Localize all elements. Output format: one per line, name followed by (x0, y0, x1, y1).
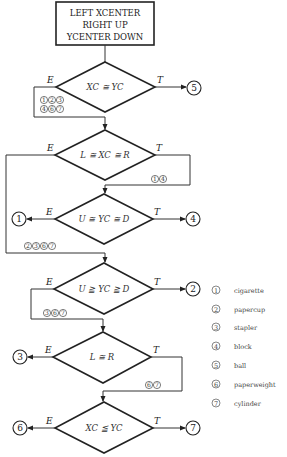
item-group: 6 7 (145, 381, 160, 389)
decision-3-condition: U ≅ YC ≅ D (79, 214, 130, 224)
legend-item-5: 5 ball (212, 361, 246, 370)
decision-5-condition: L ≅ R (89, 352, 115, 362)
svg-text:3: 3 (34, 242, 38, 249)
terminal-2: 2 (186, 282, 200, 296)
decision-6: XC ≦ YC (55, 402, 153, 453)
svg-text:4: 4 (214, 343, 218, 351)
legend: 1 cigarette 2 papercup 3 stapler 4 block… (212, 286, 276, 408)
terminal-4: 4 (186, 212, 200, 226)
then-label: T (154, 277, 161, 287)
svg-text:4: 4 (42, 105, 46, 112)
start-box: LEFT XCENTER RIGHT UP YCENTER DOWN (56, 2, 154, 45)
then-label: T (157, 75, 164, 85)
terminal-3: 3 (13, 350, 27, 364)
item-group: 2 3 6 7 (24, 242, 55, 250)
start-box-line-2: RIGHT UP (82, 20, 127, 30)
terminal-1: 1 (12, 212, 26, 226)
svg-text:6: 6 (17, 423, 23, 433)
svg-text:stapler: stapler (234, 324, 258, 332)
svg-text:1: 1 (16, 214, 22, 224)
decision-2-condition: L ≅ XC ≅ R (79, 150, 130, 160)
svg-text:3: 3 (214, 324, 218, 332)
decision-3: U ≅ YC ≅ D (55, 194, 153, 244)
else-label: E (45, 207, 53, 217)
decision-1-condition: XC ≅ YC (86, 82, 124, 92)
svg-text:7: 7 (155, 381, 159, 388)
svg-text:3: 3 (45, 309, 49, 316)
svg-text:3: 3 (58, 96, 62, 103)
svg-text:papercup: papercup (234, 306, 265, 314)
svg-text:7: 7 (50, 242, 54, 249)
decision-4: U ≧ YC ≧ D (54, 263, 153, 314)
terminal-6: 6 (13, 421, 27, 435)
decision-4-condition: U ≧ YC ≧ D (79, 284, 130, 294)
svg-text:7: 7 (214, 400, 218, 408)
svg-text:7: 7 (190, 423, 196, 433)
then-label: T (154, 416, 161, 426)
svg-text:1: 1 (42, 96, 46, 103)
then-label: T (153, 345, 160, 355)
terminal-5: 5 (187, 81, 201, 95)
else-label: E (44, 345, 52, 355)
decision-6-condition: XC ≦ YC (85, 423, 123, 433)
legend-item-7: 7 cylinder (212, 399, 262, 408)
legend-item-6: 6 paperweight (212, 380, 276, 389)
else-label: E (46, 75, 54, 85)
svg-text:6: 6 (50, 105, 54, 112)
svg-text:5: 5 (191, 83, 197, 93)
legend-item-1: 1 cigarette (212, 286, 264, 295)
svg-text:7: 7 (61, 309, 65, 316)
svg-text:6: 6 (147, 381, 151, 388)
svg-text:2: 2 (214, 306, 218, 314)
decision-5: L ≅ R (53, 332, 151, 383)
decision-2: L ≅ XC ≅ R (55, 130, 155, 180)
terminal-7: 7 (186, 421, 200, 435)
start-box-line-3: YCENTER DOWN (66, 32, 144, 42)
legend-item-4: 4 block (212, 342, 252, 351)
item-group: 1 4 (151, 175, 166, 183)
else-label: E (45, 277, 53, 287)
svg-text:ball: ball (234, 362, 246, 370)
item-group: 3 6 7 (43, 309, 66, 317)
item-group: 1 2 3 4 6 7 (40, 96, 63, 113)
svg-text:6: 6 (214, 381, 218, 389)
svg-text:6: 6 (42, 242, 46, 249)
svg-text:6: 6 (53, 309, 57, 316)
svg-text:2: 2 (190, 284, 196, 294)
legend-item-2: 2 papercup (212, 305, 265, 314)
svg-text:1: 1 (153, 175, 157, 182)
svg-text:4: 4 (161, 175, 165, 182)
start-box-line-1: LEFT XCENTER (70, 8, 141, 18)
else-label: E (46, 143, 54, 153)
decision-1: XC ≅ YC (56, 62, 155, 112)
svg-text:2: 2 (50, 96, 54, 103)
legend-item-3: 3 stapler (212, 323, 258, 332)
svg-text:5: 5 (214, 362, 218, 370)
then-label: T (154, 207, 161, 217)
svg-text:7: 7 (58, 105, 62, 112)
svg-text:cigarette: cigarette (234, 287, 264, 295)
svg-text:block: block (234, 343, 252, 351)
svg-text:1: 1 (214, 287, 218, 295)
else-label: E (45, 416, 53, 426)
flowchart: LEFT XCENTER RIGHT UP YCENTER DOWN XC ≅ … (0, 0, 287, 457)
svg-text:cylinder: cylinder (234, 400, 262, 408)
then-label: T (156, 143, 163, 153)
svg-text:paperweight: paperweight (234, 381, 276, 389)
svg-text:4: 4 (190, 214, 196, 224)
svg-text:3: 3 (17, 352, 23, 362)
svg-text:2: 2 (26, 242, 30, 249)
